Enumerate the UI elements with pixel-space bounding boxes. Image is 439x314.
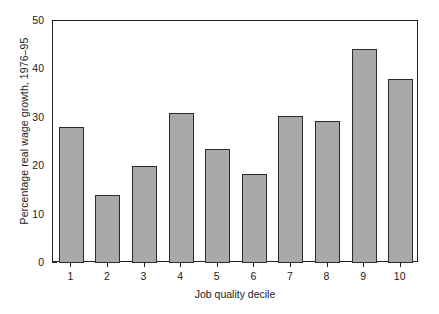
x-tick-label: 2 (89, 270, 125, 283)
y-tick-label: 20 (32, 158, 44, 172)
bar (205, 149, 230, 263)
x-tick-label: 6 (235, 270, 271, 283)
x-tick-label: 10 (382, 270, 418, 283)
bar (242, 174, 267, 263)
bar (132, 166, 157, 263)
x-tick-mark (327, 262, 328, 267)
bar (169, 113, 194, 263)
x-tick-mark (290, 262, 291, 267)
y-tick-label: 10 (32, 207, 44, 221)
x-tick-mark (107, 262, 108, 267)
bar (352, 49, 377, 263)
x-tick-mark (217, 262, 218, 267)
x-tick-mark (180, 262, 181, 267)
bar (59, 127, 84, 263)
plot-area (52, 20, 418, 262)
y-tick-label: 40 (32, 61, 44, 75)
bar (388, 79, 413, 263)
y-tick-label: 30 (32, 110, 44, 124)
y-tick-label: 50 (32, 13, 44, 27)
x-tick-mark (144, 262, 145, 267)
bar (315, 121, 340, 263)
x-tick-label: 3 (126, 270, 162, 283)
y-axis-title: Percentage real wage growth, 1976–95 (17, 0, 31, 262)
x-axis-title: Job quality decile (52, 288, 418, 300)
x-tick-mark (70, 262, 71, 267)
bar-chart-figure: Percentage real wage growth, 1976–95 010… (0, 0, 439, 314)
x-tick-label: 7 (272, 270, 308, 283)
bar (95, 195, 120, 263)
y-tick-mark (52, 262, 57, 263)
x-tick-label: 5 (199, 270, 235, 283)
x-tick-label: 8 (309, 270, 345, 283)
bar (278, 116, 303, 263)
y-tick-label: 0 (38, 255, 44, 269)
x-tick-label: 1 (52, 270, 88, 283)
x-tick-label: 9 (345, 270, 381, 283)
x-tick-mark (400, 262, 401, 267)
x-tick-label: 4 (162, 270, 198, 283)
x-tick-mark (363, 262, 364, 267)
x-tick-mark (253, 262, 254, 267)
